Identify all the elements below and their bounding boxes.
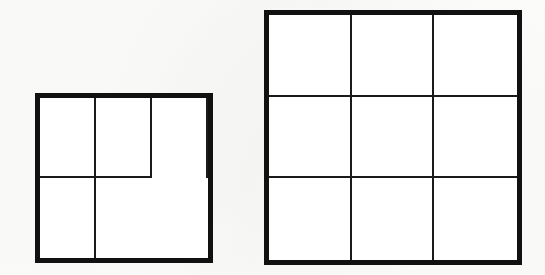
- grid-cell-r2-c1: [152, 98, 208, 178]
- grid-cell-r2-c2: [352, 97, 435, 179]
- small-square-2x2: [35, 93, 213, 263]
- grid-cell-r1-c1: [40, 98, 96, 178]
- grid-cell-r3-c3: [434, 178, 517, 260]
- grid-cell-r2-c3: [434, 97, 517, 179]
- grid-cell-r1-c3: [434, 15, 517, 97]
- grid-cell-r2-c1: [269, 97, 352, 179]
- figure-canvas: [0, 0, 545, 275]
- grid-cell-r3-c1: [269, 178, 352, 260]
- grid-cell-r1-c2: [352, 15, 435, 97]
- grid-cell-r2-c2: [40, 178, 96, 258]
- grid-cell-r1-c2: [96, 98, 152, 178]
- large-square-3x3: [264, 10, 522, 265]
- grid-cell-r1-c1: [269, 15, 352, 97]
- grid-cell-r3-c2: [352, 178, 435, 260]
